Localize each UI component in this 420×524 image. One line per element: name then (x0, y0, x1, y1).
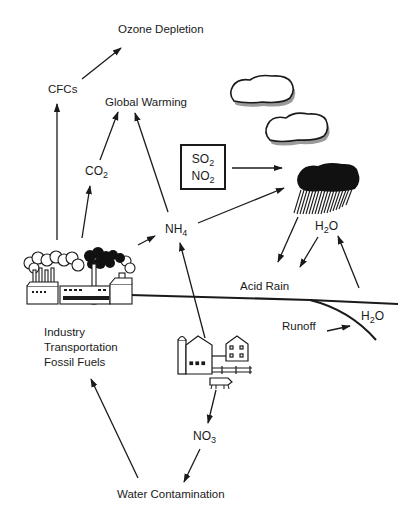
source-industry: Industry (44, 325, 118, 340)
nh4-label: NH4 (165, 222, 187, 236)
arrow-industry-to-nh4 (138, 236, 155, 245)
cloud-icon (266, 113, 330, 145)
arrow-cfcs-to-ozone (82, 48, 121, 79)
arrow-farm-to-nh4 (180, 243, 205, 338)
source-transportation: Transportation (44, 340, 118, 355)
ozone-depletion-label: Ozone Depletion (118, 23, 204, 36)
arrow-no3-to-water-contamination (184, 449, 200, 482)
no2-label: NO2 (182, 169, 224, 183)
factory-icon (24, 247, 135, 304)
arrow-rain-to-acid-rain (278, 217, 298, 262)
farm-icon (178, 336, 252, 389)
source-fossil-fuels: Fossil Fuels (44, 355, 118, 370)
rain-cloud-icon (294, 163, 359, 214)
arrow-water-contamination-to-industry (91, 379, 138, 478)
h2o-runoff-label: H2O (361, 309, 384, 323)
arrow-co2-to-global-warming (100, 112, 118, 160)
global-warming-label: Global Warming (105, 96, 187, 109)
runoff-label: Runoff (282, 320, 316, 333)
so2-label: SO2 (182, 152, 224, 166)
diagram-canvas (0, 0, 420, 524)
ground-line (130, 295, 398, 340)
arrow-farm-to-no3 (208, 390, 216, 423)
sources-label: Industry Transportation Fossil Fuels (44, 325, 118, 370)
arrow-industry-to-co2 (82, 186, 90, 238)
arrow-nh4-to-global-warming (135, 113, 168, 212)
water-contamination-label: Water Contamination (117, 488, 225, 501)
no3-label: NO3 (193, 429, 216, 443)
acid-rain-label: Acid Rain (240, 280, 289, 293)
cloud-icon (231, 76, 296, 107)
arrow-ground-to-h2o (338, 236, 359, 288)
h2o-rain-label: H2O (315, 219, 338, 233)
arrow-nh4-to-raincloud (198, 188, 284, 223)
cfcs-label: CFCs (48, 83, 77, 96)
arrow-runoff-to-h2o (327, 326, 350, 331)
so2-no2-box: SO2 NO2 (180, 144, 226, 190)
arrow-h2o-to-acid-rain (300, 237, 318, 267)
co2-label: CO2 (85, 164, 108, 178)
